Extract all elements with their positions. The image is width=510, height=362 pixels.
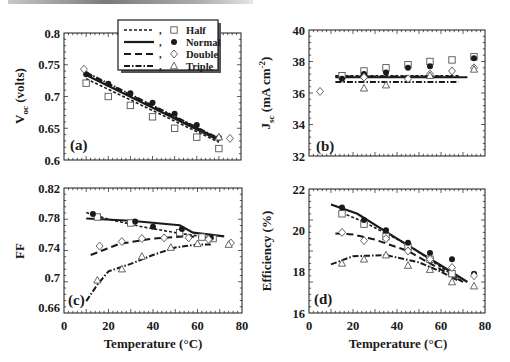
panel-c-x-axis-title: Temperature (°C) — [104, 336, 203, 351]
triangle-marker — [94, 276, 101, 283]
square-marker — [194, 134, 200, 140]
square-marker — [216, 145, 222, 151]
triangle-marker — [194, 240, 201, 247]
legend-separator: , — [159, 49, 162, 60]
diamond-marker — [361, 237, 368, 245]
legend-separator: , — [159, 61, 162, 72]
filled-circle-marker — [383, 70, 389, 76]
x-tick-label: 40 — [391, 319, 404, 333]
y-tick-label: 20 — [293, 224, 306, 238]
y-tick-label: 0.65 — [38, 122, 60, 136]
filled-circle-marker — [383, 227, 389, 233]
legend-separator: , — [159, 37, 162, 48]
square-marker — [199, 234, 205, 240]
diamond-marker — [161, 234, 168, 242]
y-tick-label: 0.66 — [38, 301, 60, 315]
panel-c-ff-chart: 0.660.70.740.780.82020406080 — [38, 182, 248, 334]
panel-b-tag: (b) — [316, 138, 334, 155]
y-tick-label: 34 — [293, 118, 306, 132]
panel-d-x-axis-title: Temperature (°C) — [349, 336, 448, 351]
filled-circle-marker — [90, 211, 96, 217]
diamond-marker — [226, 134, 233, 142]
y-tick-label: 22 — [293, 183, 306, 197]
y-tick-label: 0.8 — [44, 27, 60, 41]
y-tick-label: 36 — [293, 87, 306, 101]
filled-circle-marker — [127, 90, 133, 96]
y-tick-label: 0.75 — [38, 58, 60, 72]
panel-a-y-axis-title: Voc (volts) — [12, 68, 30, 124]
filled-circle-marker — [105, 81, 111, 87]
x-tick-label: 20 — [102, 319, 115, 333]
x-tick-label: 60 — [435, 319, 448, 333]
x-tick-label: 80 — [479, 319, 492, 333]
plot-frame — [309, 189, 485, 313]
filled-circle-marker — [339, 205, 345, 211]
filled-circle-marker — [471, 55, 477, 61]
y-tick-label: 40 — [293, 24, 306, 38]
diamond-marker — [339, 228, 346, 236]
panel-b-y-axis-title: Jsc (mA cm-2) — [257, 57, 276, 130]
four-panel-figure: 0.60.650.70.750.8 3234363840 0.660.70.74… — [0, 0, 510, 362]
y-tick-label: 0.7 — [44, 271, 60, 285]
fit-line-half — [86, 79, 219, 143]
x-tick-label: 80 — [236, 319, 249, 333]
diamond-marker — [118, 238, 125, 246]
filled-circle-marker — [339, 76, 345, 82]
fit-line-triple — [86, 245, 211, 302]
filled-circle-marker — [172, 111, 178, 117]
panel-d-efficiency-chart: 16182022020406080 — [293, 183, 492, 334]
filled-circle-marker — [194, 122, 200, 128]
filled-circle-marker — [171, 39, 177, 45]
diamond-marker — [96, 242, 103, 250]
y-tick-label: 38 — [293, 55, 306, 69]
triangle-marker — [167, 244, 174, 251]
panel-c-tag: (c) — [68, 292, 85, 309]
square-marker — [339, 211, 345, 217]
panel-d-y-axis-title: Efficiency (%) — [259, 211, 274, 292]
y-tick-label: 0.78 — [38, 211, 60, 225]
plot-frame — [309, 30, 485, 156]
fit-line-half — [342, 213, 463, 282]
y-tick-label: 16 — [293, 307, 306, 321]
diamond-marker — [449, 67, 456, 75]
filled-circle-marker — [150, 100, 156, 106]
diamond-marker — [317, 87, 324, 95]
y-tick-label: 18 — [293, 265, 306, 279]
y-tick-label: 32 — [293, 150, 306, 164]
y-tick-label: 0.7 — [44, 90, 60, 104]
y-tick-label: 0.6 — [44, 154, 60, 168]
x-tick-label: 20 — [347, 319, 360, 333]
y-tick-label: 0.82 — [38, 182, 60, 196]
triangle-marker — [360, 84, 367, 91]
triangle-marker — [138, 253, 145, 260]
filled-circle-marker — [150, 224, 156, 230]
legend-label-triple: Triple — [186, 61, 214, 72]
x-tick-label: 0 — [306, 319, 312, 333]
triangle-marker — [470, 282, 477, 289]
legend-label-half: Half — [186, 25, 206, 36]
panel-c-y-axis-title: FF — [12, 243, 27, 259]
x-tick-label: 0 — [61, 319, 67, 333]
square-marker — [127, 102, 133, 108]
filled-circle-marker — [361, 217, 367, 223]
square-marker — [83, 80, 89, 86]
square-marker — [105, 93, 111, 99]
square-marker — [449, 57, 455, 63]
y-tick-label: 0.74 — [38, 241, 61, 255]
legend-label-normal: Normal — [186, 37, 220, 48]
x-tick-label: 40 — [147, 319, 160, 333]
panel-a-tag: (a) — [70, 137, 88, 154]
legend-label-double: Double — [186, 49, 218, 60]
filled-circle-marker — [427, 63, 433, 69]
legend-separator: , — [159, 25, 162, 36]
panel-d-tag: (d) — [314, 291, 332, 308]
triangle-marker — [404, 262, 411, 269]
filled-circle-marker — [405, 240, 411, 246]
filled-circle-marker — [179, 226, 185, 232]
filled-circle-marker — [449, 256, 455, 262]
filled-circle-marker — [132, 218, 138, 224]
filled-circle-marker — [405, 65, 411, 71]
square-marker — [171, 27, 177, 33]
square-marker — [171, 125, 177, 131]
x-tick-label: 60 — [191, 319, 204, 333]
